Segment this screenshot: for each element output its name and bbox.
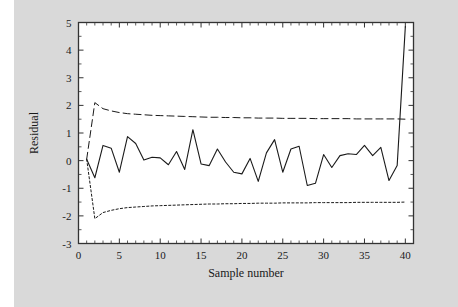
x-tick-label: 30: [318, 249, 330, 261]
x-tick-label: 15: [196, 249, 208, 261]
y-tick-label: 1: [66, 127, 72, 139]
y-tick-label: -1: [62, 182, 71, 194]
y-tick-label: -3: [62, 238, 72, 250]
x-tick-label: 5: [117, 249, 123, 261]
figure-container: 0510152025303540-3-2-1012345Sample numbe…: [0, 0, 458, 307]
y-tick-label: 4: [66, 44, 72, 56]
x-tick-label: 20: [236, 249, 248, 261]
x-tick-label: 25: [277, 249, 289, 261]
residual-control-chart: 0510152025303540-3-2-1012345Sample numbe…: [0, 0, 458, 307]
y-tick-label: 5: [66, 17, 72, 29]
x-tick-label: 0: [76, 249, 82, 261]
x-tick-label: 35: [359, 249, 371, 261]
y-tick-label: 0: [66, 155, 72, 167]
y-tick-label: 3: [66, 72, 72, 84]
x-tick-label: 10: [155, 249, 167, 261]
y-tick-label: -2: [62, 210, 71, 222]
x-axis-title: Sample number: [208, 266, 284, 280]
y-tick-label: 2: [66, 99, 72, 111]
plot-background: [79, 23, 414, 244]
x-tick-label: 40: [400, 249, 412, 261]
y-axis-title: Residual: [27, 111, 41, 154]
